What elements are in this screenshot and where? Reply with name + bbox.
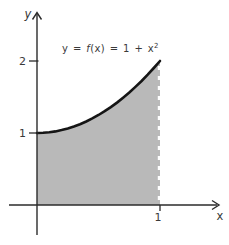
y-tick-label: 2	[19, 55, 26, 68]
plot-svg: 121xy	[0, 0, 229, 245]
x-tick-label: 1	[155, 211, 162, 224]
function-plot-figure: 121xy y = f(x) = 1 + x2	[0, 0, 229, 245]
equation-lhs: y =	[62, 43, 86, 54]
y-axis-label: y	[24, 7, 32, 21]
equation-rhs: (x) = 1 + x	[90, 43, 154, 54]
x-axis-label: x	[217, 209, 224, 223]
equation-label: y = f(x) = 1 + x2	[62, 42, 159, 54]
equation-exponent: 2	[154, 42, 159, 50]
y-tick-label: 1	[19, 127, 26, 140]
